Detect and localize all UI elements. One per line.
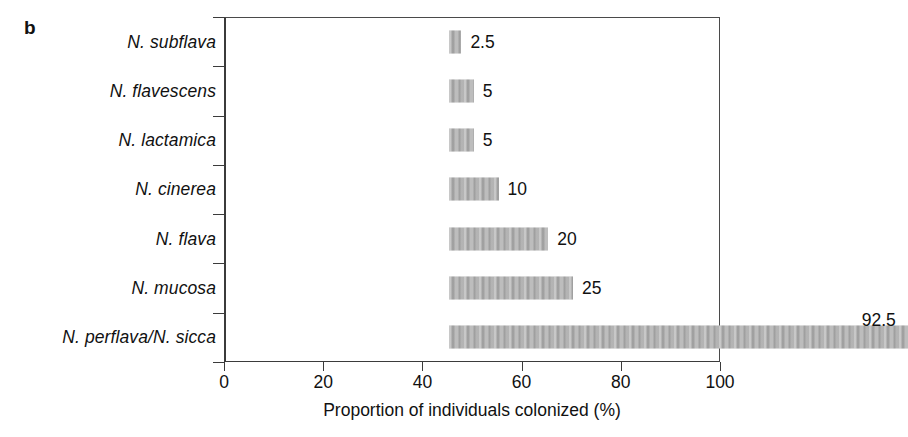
bar (449, 178, 499, 201)
y-axis-tick (213, 313, 224, 314)
x-axis-tick-label: 40 (413, 372, 432, 393)
bar (449, 277, 573, 300)
chart-row: N. flavescens5 (224, 66, 750, 115)
chart-row: N. subflava2.5 (224, 17, 750, 66)
x-axis-tick-label: 80 (611, 372, 630, 393)
y-axis-tick (213, 17, 224, 18)
bar (449, 326, 908, 349)
chart-row: N. perflava/N. sicca92.5 (224, 313, 750, 362)
chart-row: N. flava20 (224, 214, 750, 263)
chart-row: N. lactamica5 (224, 116, 750, 165)
y-axis-tick (213, 263, 224, 264)
y-axis-tick (213, 214, 224, 215)
y-axis-category-label: N. perflava/N. sicca (62, 327, 216, 348)
x-axis-tick-label: 20 (313, 372, 332, 393)
x-axis-tick (621, 362, 622, 371)
x-axis-tick-label: 100 (705, 372, 734, 393)
y-axis-category-label: N. flava (156, 228, 216, 249)
bar-value-label: 92.5 (862, 310, 896, 331)
panel-letter: b (24, 18, 36, 37)
x-axis-tick-label: 0 (219, 372, 229, 393)
x-axis-tick-label: 60 (512, 372, 531, 393)
y-axis-tick (213, 362, 224, 363)
y-axis-category-label: N. lactamica (119, 130, 216, 151)
bar-value-label: 10 (508, 179, 527, 200)
bar-value-label: 25 (582, 278, 601, 299)
chart-row: N. cinerea10 (224, 165, 750, 214)
bar-value-label: 5 (483, 80, 493, 101)
x-axis-tick (422, 362, 423, 371)
bar (449, 30, 461, 53)
bar (449, 227, 548, 250)
y-axis-category-label: N. flavescens (110, 80, 216, 101)
x-axis-title: Proportion of individuals colonized (%) (224, 400, 720, 421)
x-axis-tick (720, 362, 721, 371)
y-axis-category-label: N. mucosa (131, 278, 216, 299)
bar-value-label: 5 (483, 130, 493, 151)
chart-row: N. mucosa25 (224, 263, 750, 312)
y-axis-tick (213, 66, 224, 67)
y-axis-category-label: N. subflava (127, 31, 216, 52)
x-axis-tick (224, 362, 225, 371)
bar-value-label: 20 (557, 228, 576, 249)
bar (449, 79, 474, 102)
y-axis-category-label: N. cinerea (135, 179, 216, 200)
y-axis-tick (213, 116, 224, 117)
x-axis-tick (323, 362, 324, 371)
bar-value-label: 2.5 (470, 31, 494, 52)
x-axis-tick (522, 362, 523, 371)
y-axis-tick (213, 165, 224, 166)
bar (449, 129, 474, 152)
